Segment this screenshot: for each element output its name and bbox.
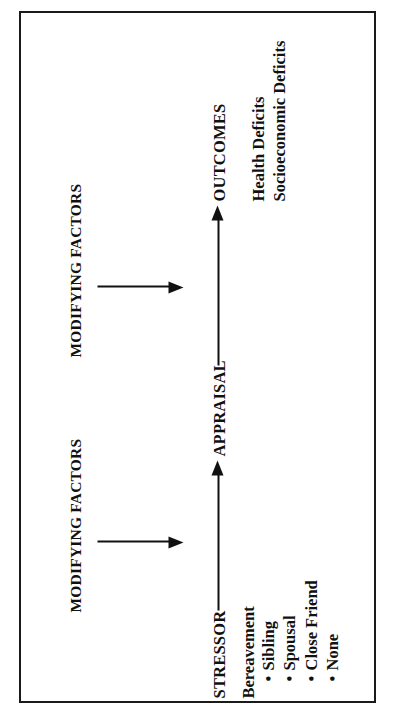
modifying-factors-label-1: MODIFYING FACTORS	[67, 439, 83, 613]
outcome-item-socioeconomic-deficits: Socioeconomic Deficits	[270, 41, 287, 202]
list-item: •None	[324, 580, 341, 681]
connector-modifier-2-line	[97, 286, 169, 288]
connector-appraisal-to-outcomes-arrowhead	[211, 206, 223, 221]
modifying-factors-label-2: MODIFYING FACTORS	[67, 184, 83, 358]
connector-modifier-1-arrowhead	[168, 537, 183, 549]
bullet-dot-icon: •	[281, 676, 298, 682]
bullet-dot-icon: •	[303, 676, 320, 682]
bullet-dot-icon: •	[260, 676, 277, 682]
list-item-label: None	[322, 634, 341, 671]
stage-label-stressor: STRESSOR	[210, 611, 227, 699]
rotated-diagram-canvas: STRESSOR APPRAISAL OUTCOMES Bereavement …	[21, 19, 374, 707]
connector-modifier-1-line	[97, 541, 169, 543]
stressor-bullet-list: •Sibling •Spousal •Close Friend •None	[260, 580, 345, 681]
list-item-label: Spousal	[279, 615, 298, 670]
stage-label-appraisal: APPRAISAL	[210, 360, 227, 456]
list-item-label: Close Friend	[301, 580, 320, 670]
list-item: •Spousal	[281, 580, 298, 681]
list-item: •Close Friend	[303, 580, 320, 681]
figure-page: STRESSOR APPRAISAL OUTCOMES Bereavement …	[0, 0, 395, 724]
stage-label-outcomes: OUTCOMES	[210, 104, 227, 202]
connector-stressor-to-appraisal-line	[217, 473, 219, 611]
connector-appraisal-to-outcomes-line	[217, 218, 219, 366]
list-item: •Sibling	[260, 580, 277, 681]
diagram-artwork: STRESSOR APPRAISAL OUTCOMES Bereavement …	[21, 19, 374, 707]
connector-modifier-2-arrowhead	[168, 282, 183, 294]
stressor-heading-bereavement: Bereavement	[239, 606, 256, 698]
connector-stressor-to-appraisal-arrowhead	[211, 461, 223, 476]
bullet-dot-icon: •	[324, 676, 341, 682]
list-item-label: Sibling	[258, 621, 277, 671]
outcome-item-health-deficits: Health Deficits	[249, 97, 266, 202]
